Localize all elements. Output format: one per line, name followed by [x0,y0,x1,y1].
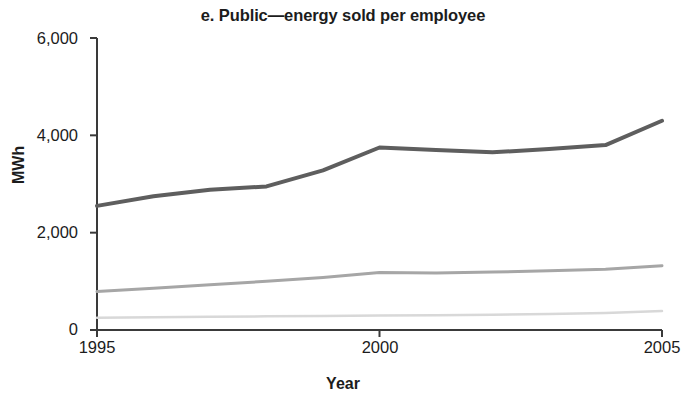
plot-area [0,0,686,402]
series-line-dark-series [97,121,662,206]
chart-figure: e. Public—energy sold per employee MWh Y… [0,0,686,402]
series-line-light-series [97,311,662,318]
series-line-medium-series [97,266,662,292]
axis-lines [90,38,662,337]
data-series-group [97,121,662,318]
